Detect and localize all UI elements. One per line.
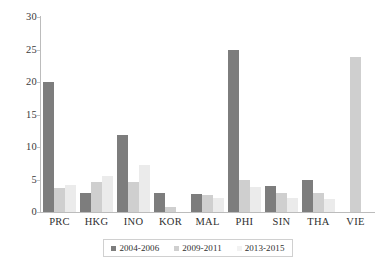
y-tick-label: 30 bbox=[3, 12, 37, 22]
legend-item[interactable]: 2009-2011 bbox=[174, 244, 222, 253]
y-tick-label: 20 bbox=[3, 77, 37, 87]
bar-group bbox=[78, 17, 115, 212]
bar-group bbox=[115, 17, 152, 212]
bar-group-bars bbox=[80, 17, 113, 212]
bar-group-bars bbox=[228, 17, 261, 212]
x-tick-label: VIE bbox=[337, 214, 374, 232]
bar bbox=[302, 180, 313, 213]
bar bbox=[265, 186, 276, 212]
bar bbox=[324, 199, 335, 212]
bar-group bbox=[226, 17, 263, 212]
x-tick-label: HKG bbox=[78, 214, 115, 232]
bar bbox=[91, 182, 102, 212]
bar bbox=[228, 50, 239, 213]
y-axis: 051015202530 bbox=[0, 0, 37, 273]
x-tick-label: SIN bbox=[263, 214, 300, 232]
bar-group-bars bbox=[265, 17, 298, 212]
bar-group-bars bbox=[154, 17, 187, 212]
bar bbox=[202, 195, 213, 212]
bar-group bbox=[300, 17, 337, 212]
chart-legend: 2004-20062009-20112013-2015 bbox=[103, 239, 293, 257]
bar-group-bars bbox=[302, 17, 335, 212]
bar bbox=[102, 176, 113, 212]
x-tick-label: PRC bbox=[41, 214, 78, 232]
bar-group bbox=[152, 17, 189, 212]
x-axis-labels: PRCHKGINOKORMALPHISINTHAVIE bbox=[41, 214, 374, 232]
bar bbox=[43, 82, 54, 212]
bar bbox=[213, 198, 224, 212]
y-tick-label: 5 bbox=[3, 175, 37, 185]
bar bbox=[287, 198, 298, 212]
y-tick-label: 0 bbox=[3, 207, 37, 217]
bar bbox=[54, 188, 65, 212]
bar-group-bars bbox=[43, 17, 76, 212]
legend-label: 2013-2015 bbox=[245, 244, 285, 253]
legend-swatch-icon bbox=[174, 246, 179, 251]
bar bbox=[313, 193, 324, 213]
bar-group bbox=[189, 17, 226, 212]
y-tick-label: 15 bbox=[3, 110, 37, 120]
legend-item[interactable]: 2004-2006 bbox=[111, 244, 159, 253]
bar bbox=[191, 194, 202, 212]
bar bbox=[65, 185, 76, 212]
bar-group bbox=[263, 17, 300, 212]
x-tick-label: KOR bbox=[152, 214, 189, 232]
bar-group-bars bbox=[117, 17, 150, 212]
x-tick-label: INO bbox=[115, 214, 152, 232]
bar bbox=[239, 180, 250, 212]
plot-area bbox=[41, 17, 374, 212]
legend-item[interactable]: 2013-2015 bbox=[237, 244, 285, 253]
bar-group-bars bbox=[191, 17, 224, 212]
bar-chart: 051015202530 PRCHKGINOKORMALPHISINTHAVIE… bbox=[0, 0, 390, 273]
bar bbox=[276, 193, 287, 213]
bar bbox=[154, 193, 165, 213]
legend-swatch-icon bbox=[111, 246, 116, 251]
x-tick-label: THA bbox=[300, 214, 337, 232]
bar-group bbox=[41, 17, 78, 212]
bar bbox=[117, 135, 128, 212]
bar bbox=[139, 165, 150, 212]
x-axis-line bbox=[40, 212, 375, 213]
bar bbox=[128, 182, 139, 212]
x-tick-label: PHI bbox=[226, 214, 263, 232]
bar-group bbox=[337, 17, 374, 212]
y-tick-label: 10 bbox=[3, 142, 37, 152]
x-tick-label: MAL bbox=[189, 214, 226, 232]
bar-group-bars bbox=[339, 17, 372, 212]
legend-label: 2004-2006 bbox=[119, 244, 159, 253]
legend-swatch-icon bbox=[237, 246, 242, 251]
bar bbox=[350, 57, 361, 212]
bar bbox=[165, 207, 176, 212]
bar bbox=[80, 193, 91, 213]
legend-label: 2009-2011 bbox=[182, 244, 222, 253]
bar bbox=[250, 187, 261, 212]
y-tick-label: 25 bbox=[3, 45, 37, 55]
